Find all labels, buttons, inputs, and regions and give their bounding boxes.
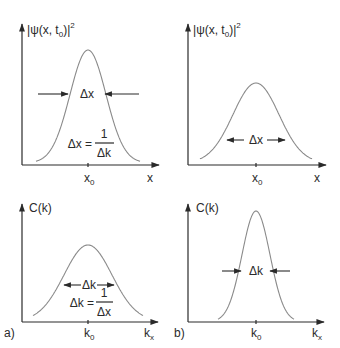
delta-x-label: Δx	[249, 133, 263, 147]
y-axis-label: |ψ(x, t0)|2	[193, 21, 241, 39]
panel-top-left: |ψ(x, t0)|2 Δx Δx = 1 Δk x0 x	[22, 21, 159, 187]
k0-tick-label: k0	[84, 326, 95, 342]
delta-k-label: Δk	[249, 264, 264, 278]
panel-top-right: |ψ(x, t0)|2 Δx x0 x	[188, 21, 326, 187]
probability-density-curve	[200, 83, 312, 159]
panel-bottom-right: C(k) Δk b) k0 kx	[174, 201, 324, 342]
delta-x-label: Δx	[80, 87, 94, 101]
panel-bottom-left: C(k) Δk Δk = 1 Δx a) k0 kx	[4, 201, 158, 342]
relation-numerator: 1	[101, 286, 108, 300]
x-axis-label: x	[314, 171, 320, 185]
y-axis-label: C(k)	[196, 201, 219, 215]
delta-k-label: Δk	[82, 278, 97, 292]
relation-lhs: Δk =	[70, 296, 94, 310]
relation-lhs: Δx =	[68, 137, 92, 151]
x-axis-label: x	[147, 171, 153, 185]
k0-tick-label: k0	[251, 326, 262, 342]
y-axis-label: C(k)	[29, 201, 52, 215]
kx-axis-label: kx	[312, 326, 322, 342]
uncertainty-relation: Δx = 1 Δk	[68, 127, 114, 160]
y-axis-label: |ψ(x, t0)|2	[27, 21, 75, 39]
panel-tag-a: a)	[4, 326, 15, 340]
x0-tick-label: x0	[252, 171, 263, 187]
x0-tick-label: x0	[84, 171, 95, 187]
relation-numerator: 1	[101, 127, 108, 141]
relation-denominator: Δx	[97, 305, 111, 319]
panel-tag-b: b)	[174, 326, 185, 340]
relation-denominator: Δk	[97, 146, 112, 160]
kx-axis-label: kx	[144, 326, 154, 342]
wave-packet-figure: |ψ(x, t0)|2 Δx Δx = 1 Δk x0 x |ψ(x, t0)|…	[0, 0, 340, 348]
